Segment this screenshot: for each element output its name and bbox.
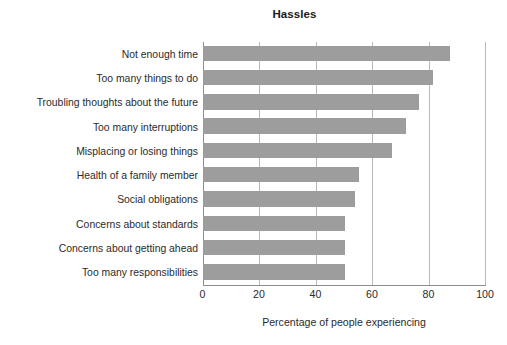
bar-row <box>203 91 486 115</box>
tick-label-100: 100 <box>476 288 494 300</box>
category-label: Concerns about getting ahead <box>2 243 198 254</box>
bar <box>203 191 356 206</box>
tick-label-60: 60 <box>366 288 378 300</box>
chart-title: Hassles <box>0 8 507 20</box>
bar <box>203 240 346 255</box>
category-label: Misplacing or losing things <box>2 146 198 157</box>
category-label: Concerns about standards <box>2 219 198 230</box>
category-label: Too many things to do <box>2 73 198 84</box>
tick-label-20: 20 <box>253 288 265 300</box>
bar-row <box>203 115 486 139</box>
bar-row <box>203 236 486 260</box>
plot-area <box>203 42 486 285</box>
bar <box>203 167 360 182</box>
category-label: Too many interruptions <box>2 122 198 133</box>
bar-chart: Hassles Not enough timeToo many things t… <box>0 0 507 345</box>
tick-label-40: 40 <box>310 288 322 300</box>
x-axis-title: Percentage of people experiencing <box>203 316 486 328</box>
bar <box>203 94 419 109</box>
bar-row <box>203 139 486 163</box>
bar-row <box>203 261 486 285</box>
bar-row <box>203 188 486 212</box>
bar <box>203 264 346 279</box>
category-label: Troubling thoughts about the future <box>2 97 198 108</box>
category-axis-labels: Not enough timeToo many things to doTrou… <box>0 42 198 285</box>
category-label: Too many responsibilities <box>2 267 198 278</box>
bar <box>203 216 346 231</box>
category-label: Health of a family member <box>2 170 198 181</box>
x-axis-line <box>203 285 486 286</box>
tick-label-0: 0 <box>200 288 206 300</box>
category-label: Not enough time <box>2 49 198 60</box>
bar <box>203 70 433 85</box>
bar-row <box>203 212 486 236</box>
bar <box>203 143 392 158</box>
bar <box>203 46 450 61</box>
bar-row <box>203 66 486 90</box>
gridline-100 <box>485 42 486 285</box>
bar-row <box>203 42 486 66</box>
tick-label-80: 80 <box>423 288 435 300</box>
category-label: Social obligations <box>2 194 198 205</box>
x-axis-tick-labels: 020406080100 <box>0 288 507 304</box>
bar-row <box>203 164 486 188</box>
bar <box>203 118 406 133</box>
